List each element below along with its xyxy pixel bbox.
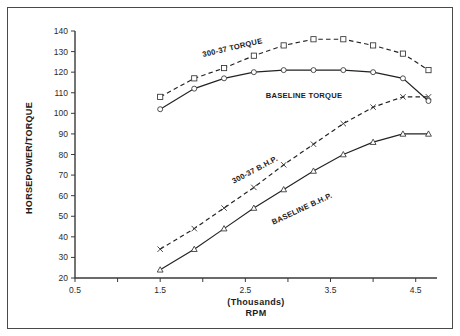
data-point-marker-square (426, 68, 431, 73)
series-path (160, 39, 428, 97)
series-path (160, 134, 428, 270)
data-point-marker-square (341, 37, 346, 42)
y-tick-label: 60 (59, 191, 69, 201)
y-tick-label: 140 (54, 26, 68, 36)
y-tick-label: 90 (59, 129, 69, 139)
series-baseline-torque (158, 68, 431, 112)
data-point-marker-x (311, 142, 316, 147)
y-axis-title: HORSEPOWER/TORQUE (24, 102, 34, 214)
data-point-marker-circle (222, 76, 227, 81)
annotation-baseline-torque: BASELINE TORQUE (266, 91, 343, 100)
y-tick-label: 70 (59, 170, 69, 180)
chart-figure: 20304050607080901001101201301400.51.52.5… (0, 0, 460, 336)
y-tick-label: 130 (54, 47, 68, 57)
data-point-marker-square (400, 51, 405, 56)
data-point-marker-square (192, 76, 197, 81)
x-tick-label: 0.5 (69, 285, 81, 295)
x-tick-label: 4.5 (410, 285, 422, 295)
data-point-marker-x (192, 226, 197, 231)
data-point-marker-circle (251, 70, 256, 75)
axis-spines (75, 31, 437, 278)
y-tick-label: 80 (59, 150, 69, 160)
data-point-marker-square (251, 53, 256, 58)
data-point-marker-square (371, 43, 376, 48)
data-point-marker-triangle (311, 168, 317, 173)
y-tick-label: 40 (59, 232, 69, 242)
data-point-marker-x (221, 205, 226, 210)
y-tick-label: 50 (59, 211, 69, 221)
data-point-marker-circle (281, 68, 286, 73)
data-point-marker-circle (311, 68, 316, 73)
x-tick-label: 1.5 (154, 285, 166, 295)
data-point-marker-triangle (157, 267, 163, 272)
data-point-marker-x (400, 94, 405, 99)
data-point-marker-triangle (251, 205, 257, 210)
x-axis-title-line1: (Thousands) (227, 297, 284, 307)
data-point-marker-circle (371, 70, 376, 75)
data-point-marker-x (251, 185, 256, 190)
y-tick-label: 110 (54, 88, 68, 98)
data-point-marker-square (311, 37, 316, 42)
data-point-marker-square (158, 94, 163, 99)
x-axis-title-line2: RPM (246, 308, 267, 318)
data-point-marker-square (281, 43, 286, 48)
y-tick-label: 120 (54, 67, 68, 77)
series-path (160, 97, 428, 249)
data-point-marker-triangle (191, 246, 197, 251)
data-point-marker-x (341, 121, 346, 126)
data-point-marker-x (281, 162, 286, 167)
series-annotations: 300-37 TORQUEBASELINE TORQUE300-37 B.H.P… (202, 36, 343, 226)
series-baseline-b-h-p (157, 131, 431, 272)
data-point-marker-x (370, 104, 375, 109)
y-tick-label: 100 (54, 108, 68, 118)
data-point-marker-circle (158, 107, 163, 112)
annotation-300-37-bhp: 300-37 B.H.P. (230, 154, 279, 186)
x-tick-label: 2.5 (239, 285, 251, 295)
series-300-37-b-h-p (157, 94, 431, 252)
data-point-marker-triangle (281, 186, 287, 191)
y-tick-label: 20 (59, 273, 69, 283)
x-tick-label: 3.5 (325, 285, 337, 295)
data-point-marker-circle (341, 68, 346, 73)
data-point-marker-triangle (221, 226, 227, 231)
data-point-marker-circle (192, 86, 197, 91)
data-point-marker-x (157, 246, 162, 251)
series-path (160, 70, 428, 109)
y-tick-label: 30 (59, 252, 69, 262)
axes: 20304050607080901001101201301400.51.52.5… (54, 26, 437, 295)
data-point-marker-circle (400, 76, 405, 81)
engine-dyno-line-chart: 20304050607080901001101201301400.51.52.5… (0, 0, 460, 336)
data-series (157, 37, 431, 272)
data-point-marker-square (221, 65, 226, 70)
annotation-baseline-bhp: BASELINE B.H.P. (270, 191, 333, 227)
